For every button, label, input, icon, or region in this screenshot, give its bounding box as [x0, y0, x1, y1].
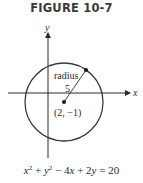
y-axis-label: y — [44, 22, 50, 33]
eq-plus: + — [32, 164, 44, 176]
radius-value: 5 — [65, 83, 70, 94]
edge-point — [84, 68, 88, 72]
center-point — [62, 100, 66, 104]
eq-plus2: + 2 — [74, 164, 91, 176]
radius-label: radius — [54, 70, 79, 81]
eq-minus4: − 4 — [52, 164, 69, 176]
eq-equals: = 20 — [97, 164, 120, 176]
circle-diagram: y x radius 5 (2, −1) — [0, 0, 143, 183]
center-label: (2, −1) — [54, 107, 81, 119]
x-axis-label: x — [132, 87, 138, 98]
circle-equation: x2 + y2 − 4x + 2y = 20 — [0, 164, 143, 176]
